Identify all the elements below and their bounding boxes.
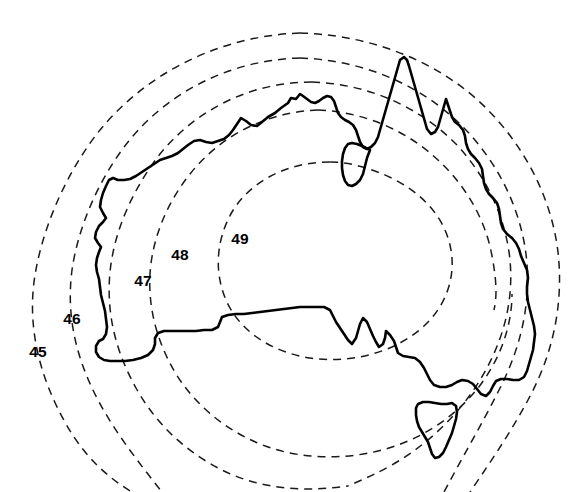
map-background bbox=[0, 0, 582, 492]
contour-label-47: 47 bbox=[134, 272, 152, 289]
contour-label-48: 48 bbox=[171, 246, 189, 263]
contour-map-figure: 45 46 47 48 49 bbox=[0, 0, 582, 492]
contour-label-46: 46 bbox=[63, 310, 81, 327]
contour-label-49: 49 bbox=[231, 230, 249, 247]
map-canvas: 45 46 47 48 49 bbox=[0, 0, 582, 492]
contour-label-45: 45 bbox=[29, 343, 47, 360]
